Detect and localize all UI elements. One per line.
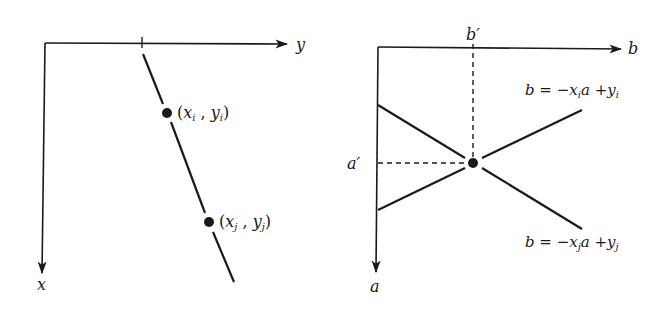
equation-line-i: b = −xia +yi: [525, 81, 619, 100]
a-axis-label: a: [370, 277, 380, 296]
data-line-segment: [171, 122, 205, 213]
x-axis-label: x: [37, 275, 46, 294]
b-axis: [378, 47, 621, 49]
param-line-j: [482, 110, 582, 158]
point-j-label: (xj , yj): [219, 212, 271, 232]
param-line-j: [378, 168, 465, 210]
data-point-j: [204, 217, 214, 227]
y-axis-label: y: [295, 35, 306, 54]
x-axis: [42, 43, 45, 273]
hough-transform-diagram: y x (xi , yi) (xj , yj) b a b′ a′: [0, 0, 669, 309]
b-prime-label: b′: [466, 25, 480, 44]
param-line-i: [378, 105, 465, 158]
intersection-point: [468, 158, 478, 168]
right-panel: b a b′ a′ b = −xia +yi b = −xja +yj: [347, 25, 638, 296]
point-i-label: (xi , yi): [177, 103, 229, 123]
a-axis: [376, 47, 378, 272]
left-panel: y x (xi , yi) (xj , yj): [37, 35, 306, 294]
y-axis: [45, 43, 287, 44]
b-axis-label: b: [628, 39, 638, 58]
data-line-segment: [143, 54, 163, 104]
param-line-i: [482, 168, 582, 229]
equation-line-j: b = −xja +yj: [525, 233, 619, 252]
a-prime-label: a′: [347, 154, 361, 173]
data-point-i: [162, 108, 172, 118]
data-line-segment: [213, 232, 234, 282]
